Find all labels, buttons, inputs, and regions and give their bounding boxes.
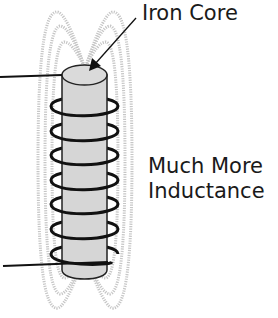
iron-core xyxy=(62,65,107,279)
iron-core-label: Iron Core xyxy=(142,1,238,26)
top-lead-wire xyxy=(0,75,62,77)
inductance-label-line1: Much More xyxy=(148,154,265,179)
inductor-diagram: Iron Core Much More Inductance xyxy=(0,0,278,318)
inductance-label-line2: Inductance xyxy=(148,179,265,204)
inductance-label: Much More Inductance xyxy=(148,154,265,204)
